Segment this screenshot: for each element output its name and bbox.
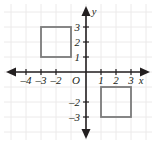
x-tick-label-neg4: –4 [20, 74, 33, 86]
y-tick-label-1: 1 [75, 51, 81, 63]
coordinate-plane-svg: –4 –3 –2 1 2 3 1 2 3 –2 –3 O x y [0, 0, 155, 144]
y-tick-label-2: 2 [75, 36, 81, 48]
x-axis-label: x [138, 75, 144, 86]
x-tick-label-neg2: –2 [50, 74, 63, 86]
x-tick-label-1: 1 [98, 74, 104, 86]
y-tick-label-neg3: –3 [68, 111, 81, 123]
y-axis-label: y [91, 6, 97, 17]
y-tick-label-3: 3 [74, 21, 81, 33]
origin-label: O [72, 74, 80, 86]
x-tick-label-2: 2 [113, 74, 119, 86]
x-tick-label-neg3: –3 [35, 74, 48, 86]
coordinate-plane-figure: –4 –3 –2 1 2 3 1 2 3 –2 –3 O x y [0, 0, 155, 144]
x-tick-label-3: 3 [127, 74, 134, 86]
y-tick-label-neg2: –2 [68, 96, 81, 108]
